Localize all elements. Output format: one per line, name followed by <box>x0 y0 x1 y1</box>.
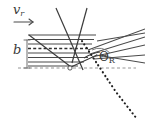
velocity-subscript: r <box>20 9 24 18</box>
incoming-parallel-rays <box>28 35 96 66</box>
impact-parameter-label: b <box>13 43 21 56</box>
outgoing-rays-upper-right <box>88 29 145 63</box>
center-circle-icon <box>68 66 72 70</box>
scatter-angle-symbol: Θ <box>99 50 109 64</box>
velocity-label: vr <box>13 3 24 18</box>
scatter-angle-subscript: R <box>109 56 115 65</box>
scattering-diagram-figure: vr b ΘR <box>0 0 145 119</box>
scatter-angle-label: ΘR <box>99 51 115 65</box>
arrow-right-icon <box>14 19 33 25</box>
